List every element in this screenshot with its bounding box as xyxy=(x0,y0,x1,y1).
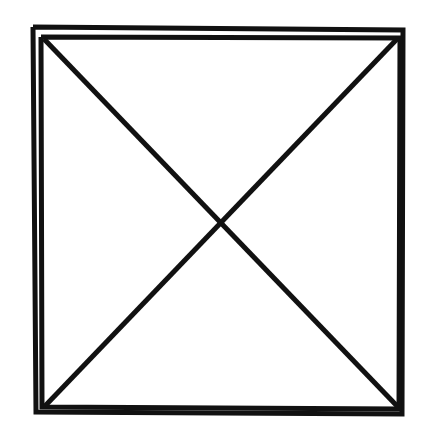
figure-root: Hand-drawn square with two crossing diag… xyxy=(0,0,422,445)
figure-canvas: Hand-drawn square with two crossing diag… xyxy=(0,0,422,445)
figure-background xyxy=(0,0,422,445)
